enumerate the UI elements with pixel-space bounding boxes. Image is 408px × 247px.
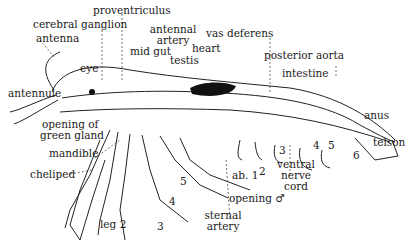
- label-opening-male: opening ♂: [229, 193, 285, 204]
- label-antenna: antenna: [36, 33, 79, 44]
- label-cheliped: cheliped: [30, 169, 75, 180]
- label-heart: heart: [192, 43, 220, 54]
- label-telson: telson: [373, 137, 405, 148]
- label-vas-deferens: vas deferens: [206, 28, 273, 39]
- label-ventral-nerve-cord: ventral nerve cord: [274, 159, 318, 192]
- label-leg-5: 5: [180, 176, 187, 187]
- label-eye: eye: [80, 63, 98, 74]
- label-opening-green-gland: opening of green gland: [40, 119, 104, 141]
- label-leg-2: leg 2: [100, 219, 126, 230]
- label-sternal-artery: sternal artery: [203, 210, 243, 232]
- label-ab-2: 2: [259, 166, 266, 177]
- label-posterior-aorta: posterior aorta: [264, 50, 344, 61]
- label-ab-3: 3: [279, 145, 286, 156]
- label-mandible: mandible: [49, 148, 98, 159]
- label-cerebral-ganglion: cerebral ganglion: [33, 19, 127, 30]
- label-intestine: intestine: [282, 68, 329, 79]
- label-ab-1: ab. 1: [232, 170, 258, 181]
- label-antennal-artery: antennal artery: [148, 24, 198, 46]
- label-ab-5: 5: [328, 140, 335, 151]
- label-testis: testis: [170, 55, 199, 66]
- label-anus: anus: [364, 110, 389, 121]
- label-ab-6: 6: [353, 150, 360, 161]
- label-leg-3: 3: [157, 221, 164, 232]
- label-leg-4: 4: [169, 196, 176, 207]
- label-ab-4: 4: [313, 140, 320, 151]
- crayfish-anatomy-diagram: proventriculus cerebral ganglion antenna…: [0, 0, 408, 247]
- label-proventriculus: proventriculus: [93, 5, 171, 16]
- label-antennule: antennule: [8, 88, 61, 99]
- label-mid-gut: mid gut: [130, 46, 171, 57]
